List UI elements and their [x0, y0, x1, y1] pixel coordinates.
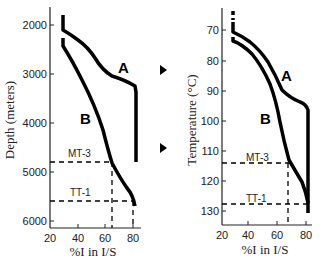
curve-a-label: A	[281, 67, 292, 84]
left-x-tick: 40	[72, 232, 84, 244]
right-y-tick: 110	[201, 145, 219, 157]
left-x-tick: 80	[127, 232, 139, 244]
mt3-label: MT-3	[68, 148, 91, 159]
right-y-tick: 120	[201, 175, 219, 187]
right-x-axis-label: %I in I/S	[242, 242, 289, 257]
left-x-tick: 20	[44, 232, 56, 244]
right-x-tick: 60	[271, 229, 283, 241]
right-x-tick: 80	[300, 229, 312, 241]
curve-b-label: B	[260, 110, 271, 127]
arrow-right-icon	[160, 65, 167, 75]
curve-a-label: A	[118, 59, 129, 76]
tt1-label: TT-1	[70, 187, 91, 198]
left-x-tick: 60	[99, 232, 111, 244]
left-y-tick: 4000	[23, 117, 47, 129]
right-y-tick: 80	[207, 55, 219, 67]
right-y-tick: 130	[201, 205, 219, 217]
left-y-tick: 6000	[23, 215, 47, 227]
right-y-axis-label: Temperature (°C)	[184, 74, 199, 165]
right-x-tick: 40	[242, 229, 254, 241]
right-x-tick: 20	[216, 229, 228, 241]
curve-b-label: B	[80, 110, 91, 127]
chart-canvas: 2000 3000 4000 5000 6000 20 40 60 80 %I …	[0, 0, 326, 261]
arrow-right-icon	[160, 143, 167, 153]
mt3-label: MT-3	[246, 152, 269, 163]
right-y-tick: 70	[207, 24, 219, 36]
curve-a	[63, 15, 136, 162]
left-x-axis-label: %I in I/S	[70, 244, 117, 259]
temperature-chart: 70 80 90 100 110 120 130 20 40 60 80 %I …	[184, 8, 312, 257]
tt1-label: TT-1	[246, 193, 267, 204]
left-y-axis-label: Depth (meters)	[2, 81, 17, 159]
left-y-tick: 2000	[23, 19, 47, 31]
left-y-tick: 5000	[23, 166, 47, 178]
right-y-tick: 90	[207, 85, 219, 97]
right-y-tick: 100	[201, 115, 219, 127]
depth-chart: 2000 3000 4000 5000 6000 20 40 60 80 %I …	[2, 7, 141, 259]
left-y-tick: 3000	[23, 68, 47, 80]
